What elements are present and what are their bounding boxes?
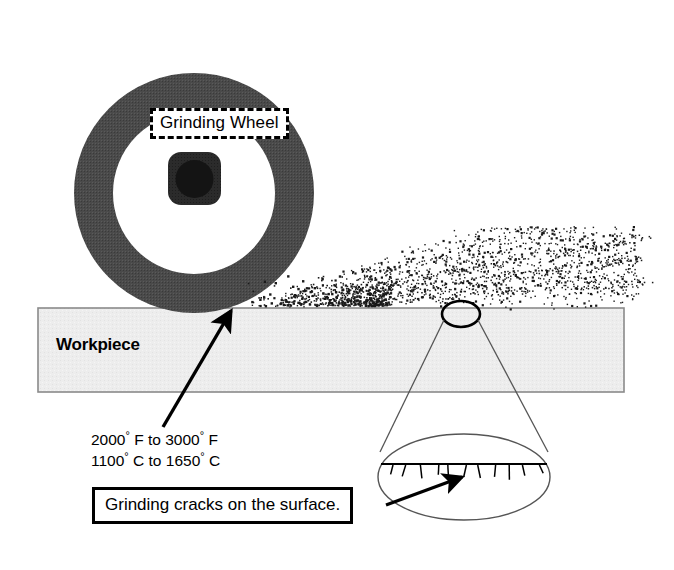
temperature-celsius: 1100° C to 1650° C bbox=[91, 450, 220, 471]
diagram-svg bbox=[0, 0, 674, 570]
temperature-fahrenheit: 2000° F to 3000° F bbox=[91, 429, 220, 450]
workpiece-label: Workpiece bbox=[56, 335, 140, 355]
diagram-canvas: Grinding Wheel Workpiece 2000° F to 3000… bbox=[0, 0, 674, 570]
temperature-annotation: 2000° F to 3000° F 1100° C to 1650° C bbox=[91, 429, 220, 471]
grinding-cracks-callout: Grinding cracks on the surface. bbox=[92, 487, 353, 524]
spark-stream bbox=[248, 226, 654, 311]
grinding-wheel-label: Grinding Wheel bbox=[150, 108, 289, 139]
wheel-bore bbox=[176, 160, 214, 198]
